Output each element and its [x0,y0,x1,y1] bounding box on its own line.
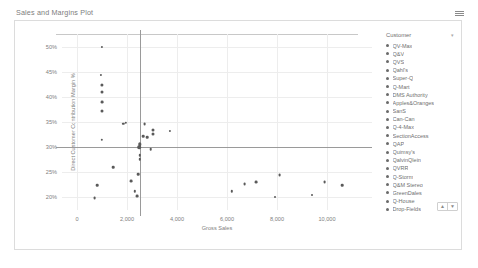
scatter-point[interactable] [100,83,103,86]
legend-item[interactable]: QVS [386,58,460,66]
scatter-chart: Direct Customer Contribution Margin % Gr… [14,20,462,250]
legend-item-label: Q&M Stereo [393,182,423,188]
y-axis-tick-label: 40% [46,94,57,100]
scatter-point[interactable] [146,136,149,139]
scatter-point[interactable] [96,184,99,187]
legend-item[interactable]: Q&V [386,50,460,58]
legend-item[interactable]: Q&M Stereo [386,181,460,189]
x-axis-tick-label: 6,000 [220,216,234,222]
legend-item[interactable]: Apples&Oranges [386,99,460,107]
scatter-point[interactable] [254,181,257,184]
legend-page-up-icon[interactable]: ▲ [438,203,447,210]
legend-item[interactable]: QV-Max [386,42,460,50]
gridline-horizontal [62,122,372,123]
reference-line-horizontal [56,147,372,148]
legend-item-label: Q-Storm [393,174,414,180]
scatter-point[interactable] [142,135,145,138]
legend-marker-icon [386,151,389,154]
scatter-point[interactable] [168,129,170,131]
scatter-point[interactable] [136,195,139,198]
scatter-point[interactable] [149,148,152,151]
legend-item-label: SectionAccess [393,133,429,139]
scatter-point[interactable] [231,190,233,192]
legend-item-label: Q-Mart [393,84,410,90]
scatter-point[interactable] [243,183,246,186]
scatter-point[interactable] [101,100,104,103]
legend-item[interactable]: QalvinQlein [386,156,460,164]
legend: Customer ▾ QV-MaxQ&VQVSQahl'sSuper-QQ-Ma… [386,32,460,213]
legend-item-label: QV-Max [393,43,413,49]
legend-item[interactable]: SanS [386,107,460,115]
legend-marker-icon [386,69,389,72]
sort-icon[interactable]: ▾ [451,32,454,38]
scatter-point[interactable] [93,197,96,200]
scatter-point[interactable] [112,166,115,169]
legend-item-label: Super-Q [393,75,414,81]
scatter-point[interactable] [152,132,155,135]
x-axis-line [56,34,358,35]
legend-marker-icon [386,101,389,104]
scatter-point[interactable] [137,173,140,176]
legend-item[interactable]: Q-4-Max [386,123,460,131]
legend-item-label: Q-House [393,198,415,204]
scatter-point[interactable] [100,74,102,76]
legend-marker-icon [386,134,389,137]
legend-item[interactable]: DMS Authority [386,91,460,99]
legend-item[interactable]: Qahl's [386,66,460,74]
legend-pager[interactable]: ▲ ▼ [437,202,458,211]
legend-marker-icon [386,208,389,211]
scatter-point[interactable] [101,109,104,112]
legend-item-label: QAP [393,141,405,147]
hamburger-menu-icon[interactable] [455,11,464,17]
legend-item[interactable]: QAP [386,140,460,148]
gridline-horizontal [62,47,372,48]
scatter-point[interactable] [101,90,104,93]
y-axis-tick-label: 25% [46,169,57,175]
page-title: Sales and Margins Plot [16,8,93,17]
legend-item-label: Can-Can [393,116,415,122]
legend-marker-icon [386,60,389,63]
legend-item-label: Drop-Fields [393,206,421,212]
scatter-point[interactable] [323,180,326,183]
legend-marker-icon [386,110,389,113]
legend-item-label: QVRR [393,165,409,171]
scatter-point[interactable] [137,145,141,149]
scatter-point[interactable] [133,190,135,192]
legend-item[interactable]: SectionAccess [386,132,460,140]
x-axis-tick-label: 8,000 [270,216,284,222]
legend-item-label: Apples&Oranges [393,100,435,106]
legend-item-label: Quimsy's [393,149,415,155]
legend-item[interactable]: Can-Can [386,115,460,123]
scatter-point[interactable] [101,139,103,141]
scatter-point[interactable] [274,196,276,198]
scatter-point[interactable] [278,174,281,177]
legend-item[interactable]: GreenDales [386,189,460,197]
chart-object-container: Sales and Margins Plot Direct Customer C… [0,0,478,268]
legend-list: QV-MaxQ&VQVSQahl'sSuper-QQ-MartDMS Autho… [386,42,460,214]
legend-marker-icon [386,167,389,170]
y-axis-tick-label: 50% [46,44,57,50]
legend-marker-icon [386,175,389,178]
scatter-point[interactable] [311,194,313,196]
gridline-horizontal [62,72,372,73]
legend-page-down-icon[interactable]: ▼ [447,203,457,210]
gridline-horizontal [62,197,372,198]
legend-marker-icon [386,118,389,121]
plot-area[interactable]: Direct Customer Contribution Margin % Gr… [62,34,372,210]
legend-item[interactable]: QVRR [386,164,460,172]
legend-item-label: DMS Authority [393,92,428,98]
x-axis-tick-label: 10,000 [318,216,335,222]
x-axis-tick-label: 2,000 [120,216,134,222]
scatter-point[interactable] [341,184,344,187]
legend-item[interactable]: Q-Storm [386,173,460,181]
scatter-point[interactable] [129,180,132,183]
legend-item-label: SanS [393,108,406,114]
legend-item[interactable]: Super-Q [386,74,460,82]
legend-item[interactable]: Quimsy's [386,148,460,156]
scatter-point[interactable] [143,123,146,126]
gridline-horizontal [62,97,372,98]
legend-marker-icon [386,85,389,88]
legend-item-label: Q&V [393,51,405,57]
legend-item[interactable]: Q-Mart [386,82,460,90]
legend-marker-icon [386,191,389,194]
